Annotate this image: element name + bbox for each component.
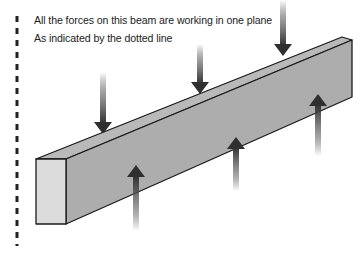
down-force-arrow-1 (94, 72, 112, 134)
down-force-arrow-2 (191, 44, 209, 94)
beam-diagram (0, 0, 364, 254)
beam (36, 37, 352, 224)
up-force-arrow-3 (309, 94, 327, 156)
down-force-arrow-3 (274, 0, 292, 56)
up-force-arrow-1 (127, 165, 145, 231)
